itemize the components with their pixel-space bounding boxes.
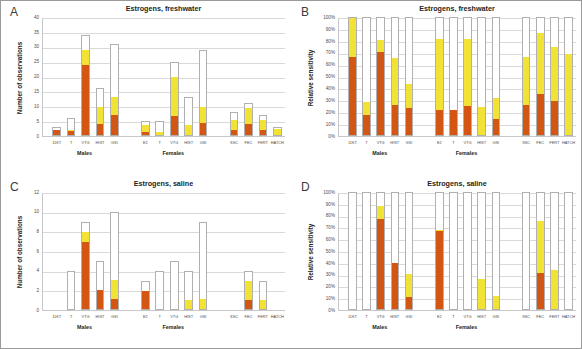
bar-fert-2 bbox=[550, 17, 558, 136]
bar-segment-mid bbox=[363, 102, 369, 115]
bar-fec-2 bbox=[536, 192, 544, 310]
bar-segment-low bbox=[349, 57, 355, 135]
bar-t-1 bbox=[449, 17, 457, 136]
bar-e2-1 bbox=[435, 192, 443, 310]
bar-segment-mid bbox=[260, 120, 267, 129]
bar-segment-mid bbox=[111, 97, 118, 114]
bar-segment-mid bbox=[156, 132, 163, 135]
plot-area: 02468101211KTTVTGHISTGSIE2TVTGHISTGSISSC… bbox=[42, 193, 285, 311]
y-axis-tick-label: 25 bbox=[9, 60, 39, 65]
panel-title: Estrogens, freshwater bbox=[42, 4, 285, 13]
bar-gsi-1 bbox=[492, 192, 500, 310]
y-axis-tick-label: 35 bbox=[9, 31, 39, 36]
bar-hist-1 bbox=[184, 97, 193, 136]
group-label: Females bbox=[137, 150, 209, 156]
group-label: Males bbox=[344, 150, 415, 156]
panel-b: BEstrogens, freshwaterRelative sensitivi… bbox=[291, 0, 582, 175]
bar-segment-mid bbox=[478, 279, 484, 309]
bar-segment-mid bbox=[245, 108, 252, 123]
bar-segment-mid bbox=[406, 274, 412, 297]
y-axis-tick-label: 4 bbox=[9, 269, 39, 274]
group-label: Males bbox=[344, 324, 415, 330]
bar-segment-low bbox=[464, 106, 470, 135]
bar-segment-low bbox=[82, 242, 89, 309]
bar-gsi-1 bbox=[199, 222, 208, 311]
bar-segment-low bbox=[392, 105, 398, 135]
x-axis-tick-label: HATCH bbox=[260, 315, 295, 319]
bar-segment-low bbox=[523, 105, 529, 135]
bar-gsi-0 bbox=[110, 212, 119, 310]
bar-hist-1 bbox=[477, 192, 485, 310]
bar-vtg-1 bbox=[170, 62, 179, 136]
panel-c: CEstrogens, salineNumber of observations… bbox=[0, 175, 291, 349]
bar-vtg-1 bbox=[170, 261, 179, 310]
x-axis-tick-label: HATCH bbox=[552, 315, 582, 319]
bar-t-0 bbox=[67, 271, 76, 310]
bar-ssc-2 bbox=[522, 192, 530, 310]
bar-segment-low bbox=[436, 110, 442, 135]
bar-segment-low bbox=[97, 290, 104, 309]
bar-segment-mid bbox=[436, 230, 442, 231]
x-axis-tick-label: GSI bbox=[186, 315, 221, 319]
bar-segment-mid bbox=[464, 39, 470, 106]
y-axis-tick-label: 70% bbox=[305, 226, 335, 231]
bar-e2-1 bbox=[141, 121, 150, 136]
panel-title: Estrogens, freshwater bbox=[338, 4, 576, 13]
bar-segment-mid bbox=[493, 98, 499, 119]
y-axis-tick-label: 10 bbox=[9, 105, 39, 110]
bar-fert-2 bbox=[259, 281, 268, 311]
gridline bbox=[43, 232, 285, 233]
gridline bbox=[43, 92, 285, 93]
bar-vtg-0 bbox=[376, 192, 384, 310]
bar-segment-low bbox=[493, 119, 499, 135]
bar-segment-low bbox=[231, 130, 238, 135]
bar-segment-low bbox=[171, 116, 178, 135]
plot-area: 0%10%20%30%40%50%60%70%80%90%100%11KTTVT… bbox=[338, 193, 576, 311]
plot-area: 0%10%20%30%40%50%60%70%80%90%100%11KTTVT… bbox=[338, 18, 576, 137]
bar-segment-mid bbox=[274, 129, 281, 135]
y-axis-tick-label: 0 bbox=[9, 309, 39, 314]
bar-segment-mid bbox=[200, 299, 207, 309]
y-axis-tick-label: 100% bbox=[305, 191, 335, 196]
y-axis-tick-label: 0% bbox=[305, 135, 335, 140]
bar-segment-low bbox=[97, 124, 104, 135]
bar-hist-1 bbox=[477, 17, 485, 136]
bar-segment-mid bbox=[377, 206, 383, 219]
bar-gsi-1 bbox=[492, 17, 500, 136]
bar-segment-mid bbox=[185, 300, 192, 309]
y-axis-tick-label: 0 bbox=[9, 135, 39, 140]
y-axis-tick-label: 80% bbox=[305, 214, 335, 219]
bar-segment-mid bbox=[551, 47, 557, 101]
x-axis-tick-label: GSI bbox=[186, 141, 221, 145]
bar-segment-low bbox=[53, 130, 60, 135]
bar-t-0 bbox=[362, 192, 370, 310]
y-axis-tick-label: 8 bbox=[9, 230, 39, 235]
x-axis-tick-label: HATCH bbox=[260, 141, 295, 145]
bar-segment-low bbox=[377, 219, 383, 309]
bar-segment-mid bbox=[171, 77, 178, 116]
bar-gsi-0 bbox=[110, 44, 119, 136]
bar-11kt-0 bbox=[348, 192, 356, 310]
bar-segment-mid bbox=[565, 54, 571, 135]
y-axis-tick-label: 40% bbox=[305, 87, 335, 92]
y-axis-tick-label: 10% bbox=[305, 123, 335, 128]
x-axis-tick-label: GSI bbox=[392, 141, 426, 145]
y-axis-tick-label: 30% bbox=[305, 273, 335, 278]
bar-segment-low bbox=[245, 124, 252, 135]
bar-11kt-0 bbox=[52, 127, 61, 136]
y-axis-tick-label: 20 bbox=[9, 75, 39, 80]
bar-segment-low bbox=[68, 131, 75, 135]
bar-segment-mid bbox=[97, 107, 104, 124]
bar-segment-low bbox=[111, 299, 118, 309]
bar-segment-mid bbox=[377, 40, 383, 52]
bar-segment-mid bbox=[68, 130, 75, 131]
bar-segment-mid bbox=[349, 18, 355, 57]
group-label: Males bbox=[48, 150, 120, 156]
bar-segment-low bbox=[436, 231, 442, 309]
x-axis-tick-label: GSI bbox=[97, 141, 132, 145]
bar-hist-0 bbox=[391, 192, 399, 310]
y-axis-tick-label: 80% bbox=[305, 40, 335, 45]
bar-segment-mid bbox=[245, 281, 252, 300]
bar-segment-low bbox=[450, 110, 456, 135]
y-axis-tick-label: 15 bbox=[9, 90, 39, 95]
